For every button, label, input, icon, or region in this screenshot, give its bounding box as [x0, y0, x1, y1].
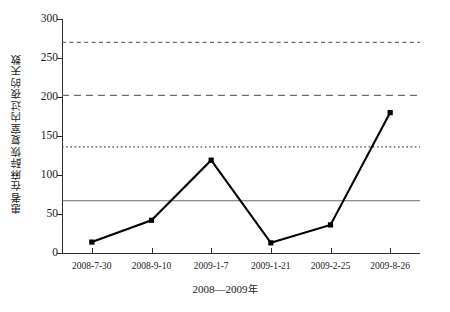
x-tick-mark	[92, 248, 93, 254]
data-point-marker	[388, 110, 393, 115]
plot-area	[62, 19, 420, 253]
series-line	[92, 113, 390, 243]
x-tick-mark	[211, 248, 212, 254]
y-tick-label: 100	[41, 169, 58, 181]
y-tick-mark	[57, 97, 63, 98]
y-tick-mark	[57, 136, 63, 137]
y-tick-mark	[57, 175, 63, 176]
x-axis-title-unit: 年	[248, 284, 258, 295]
y-axis-tick-labels: 050100150200250300	[28, 0, 62, 312]
x-tick-label: 2009-1-7	[194, 261, 229, 271]
x-tick-mark	[390, 248, 391, 254]
data-point-marker	[89, 239, 94, 244]
y-tick-mark	[57, 58, 63, 59]
y-tick-mark	[57, 253, 63, 254]
x-axis-title: 2008—2009年	[0, 281, 450, 296]
data-point-marker	[209, 158, 214, 163]
x-tick-mark	[152, 248, 153, 254]
y-tick-label: 300	[41, 13, 58, 25]
x-axis-title-years: 2008—2009	[193, 283, 248, 295]
x-tick-label: 2008-7-30	[72, 261, 112, 271]
y-tick-label: 250	[41, 52, 58, 64]
data-point-marker	[268, 240, 273, 245]
y-tick-label: 200	[41, 91, 58, 103]
x-tick-label: 2009-1-21	[251, 261, 291, 271]
line-chart: 患者在麻醉恢复室内过夜的天数 050100150200250300 2008-7…	[0, 0, 450, 312]
x-tick-label: 2008-9-10	[132, 261, 172, 271]
y-tick-label: 150	[41, 130, 58, 142]
data-point-marker	[149, 218, 154, 223]
x-axis-line	[62, 253, 420, 254]
y-tick-mark	[57, 214, 63, 215]
plot-svg	[62, 19, 420, 253]
y-axis-title: 患者在麻醉恢复室内过夜的天数	[2, 0, 30, 268]
y-tick-mark	[57, 19, 63, 20]
x-tick-mark	[331, 248, 332, 254]
x-tick-label: 2009-2-25	[311, 261, 351, 271]
data-point-marker	[328, 222, 333, 227]
x-tick-label: 2009-8-26	[370, 261, 410, 271]
x-tick-mark	[271, 248, 272, 254]
